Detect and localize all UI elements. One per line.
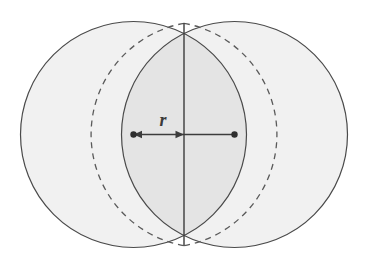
radius-label: r [159,110,167,130]
overlapping-circles-diagram: r [0,0,367,269]
center-dot-left [130,131,136,137]
figure-container: r [0,0,367,269]
center-dot-right [231,131,237,137]
